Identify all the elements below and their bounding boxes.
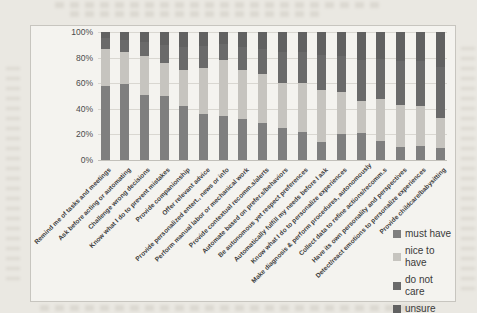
bar-segment-nice-to-have [357,101,366,133]
bar-segment-do-not-care [278,52,287,83]
bar-segment-must-have [298,132,307,160]
bar-segment-do-not-care [238,47,247,70]
bar-segment-unsure [140,32,149,42]
bar-segment-must-have [357,133,366,160]
gridline [98,160,447,161]
legend-label: nice to have [405,245,455,269]
bar-segment-nice-to-have [337,92,346,134]
page-texture [461,40,475,290]
bar-segment-must-have [396,147,405,160]
bar-segment-nice-to-have [376,99,385,141]
bar-segment-do-not-care [298,52,307,83]
bar-segment-do-not-care [199,46,208,68]
bar-segment-nice-to-have [396,105,405,147]
legend-label: unsure [405,303,436,313]
gridline [98,32,447,33]
bar-segment-nice-to-have [120,52,129,84]
bar-segment-do-not-care [179,47,188,70]
legend-item: unsure [393,303,455,313]
bar-segment-must-have [120,84,129,160]
bar-segment-nice-to-have [317,90,326,142]
bar-segment-unsure [238,32,247,47]
bar-segment-nice-to-have [238,70,247,119]
gridline [98,134,447,135]
bar-segment-do-not-care [219,44,228,61]
legend-label: must have [405,228,451,240]
legend-swatch-icon [393,230,401,238]
y-axis-tick-label: 80% [53,53,93,63]
bar-segment-unsure [396,32,405,61]
bar-segment-nice-to-have [219,60,228,116]
bar-segment-do-not-care [140,42,149,56]
bar-segment-must-have [160,96,169,160]
gridline [98,109,447,110]
bar-segment-nice-to-have [160,63,169,96]
bar-segment-must-have [416,146,425,160]
bar-segment-must-have [101,86,110,160]
bar-segment-nice-to-have [199,68,208,114]
bar-segment-unsure [219,32,228,44]
bar-segment-unsure [337,32,346,56]
bar-segment-must-have [219,116,228,160]
bar-segment-nice-to-have [416,106,425,146]
chart-legend: must havenice to havedo not careunsure [393,228,455,313]
bar-segment-unsure [376,32,385,59]
bar-segment-do-not-care [337,56,346,92]
bar-segment-unsure [416,32,425,61]
legend-swatch-icon [393,282,401,290]
legend-swatch-icon [393,305,401,313]
bar-segment-must-have [258,123,267,160]
bar-segment-do-not-care [120,40,129,53]
y-axis-tick-label: 60% [53,78,93,88]
bar-segment-must-have [140,95,149,160]
legend-item: do not care [393,274,455,298]
bar-segment-unsure [199,32,208,46]
bar-segment-do-not-care [376,59,385,99]
bar-segment-unsure [120,32,129,40]
bar-segment-nice-to-have [298,83,307,132]
bar-segment-must-have [376,141,385,160]
bar-segment-unsure [179,32,188,47]
y-axis-tick-label: 100% [53,27,93,37]
bar-segment-nice-to-have [179,70,188,106]
legend-item: nice to have [393,245,455,269]
bar-segment-do-not-care [101,38,110,48]
bar-segment-nice-to-have [140,56,149,94]
bar-segment-must-have [317,142,326,160]
bar-segment-nice-to-have [258,74,267,123]
legend-swatch-icon [393,253,401,261]
bar-segment-do-not-care [357,60,366,101]
page-texture [70,11,320,17]
bar-segment-do-not-care [436,67,445,118]
bar-segment-must-have [238,119,247,160]
bar-segment-unsure [258,32,267,49]
legend-item: must have [393,228,455,240]
bar-segment-do-not-care [416,61,425,106]
bar-segment-do-not-care [160,45,169,63]
y-axis-tick-label: 20% [53,129,93,139]
page-texture [6,60,20,280]
bar-segment-must-have [179,106,188,160]
y-axis-tick-label: 0% [53,155,93,165]
bar-segment-unsure [357,32,366,60]
chart-frame: Remind me of tasks and meetingsAsk befor… [30,25,456,302]
gridline [98,58,447,59]
bar-segment-nice-to-have [278,83,287,128]
bar-segment-unsure [436,32,445,67]
bar-segment-unsure [278,32,287,52]
bar-segment-must-have [436,148,445,160]
bar-segment-unsure [298,32,307,52]
gridline [98,83,447,84]
bar-segment-must-have [278,128,287,160]
bar-segment-unsure [101,32,110,38]
legend-label: do not care [405,274,455,298]
bar-segment-must-have [337,134,346,160]
bar-segment-unsure [160,32,169,45]
page-texture [55,2,385,8]
plot-area: Remind me of tasks and meetingsAsk befor… [98,32,447,160]
scanned-page: { "chart_data": { "type": "bar", "stacke… [0,0,477,313]
bar-segment-do-not-care [396,61,405,105]
bar-segment-unsure [317,32,326,55]
bar-segment-do-not-care [317,55,326,90]
y-axis-tick-label: 40% [53,104,93,114]
